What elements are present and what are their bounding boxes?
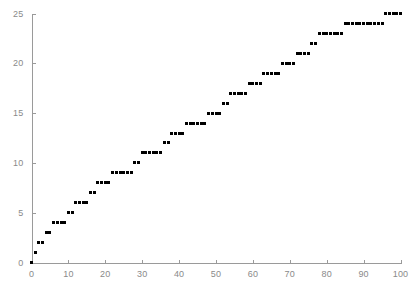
x-tick-label: 60: [248, 269, 258, 279]
data-point: [362, 22, 365, 25]
data-point: [288, 62, 291, 65]
y-tick: [32, 14, 36, 15]
data-point: [45, 231, 48, 234]
data-point: [89, 191, 92, 194]
x-tick-label: 10: [63, 269, 73, 279]
data-point: [355, 22, 358, 25]
data-point: [174, 132, 177, 135]
data-point: [133, 161, 136, 164]
data-point: [395, 12, 398, 15]
y-tick: [32, 113, 36, 114]
x-tick: [179, 260, 180, 264]
x-tick: [253, 260, 254, 264]
data-point: [178, 132, 181, 135]
data-point: [340, 32, 343, 35]
data-point: [314, 42, 317, 45]
data-point: [310, 42, 313, 45]
x-tick-label: 80: [321, 269, 331, 279]
data-point: [285, 62, 288, 65]
x-tick-label: 70: [285, 269, 295, 279]
data-point: [358, 22, 361, 25]
data-point: [152, 151, 155, 154]
data-point: [48, 231, 51, 234]
data-point: [373, 22, 376, 25]
data-point: [388, 12, 391, 15]
x-tick: [216, 260, 217, 264]
x-tick: [364, 260, 365, 264]
data-point: [41, 241, 44, 244]
data-point: [211, 112, 214, 115]
data-point: [218, 112, 221, 115]
x-tick: [105, 260, 106, 264]
data-point: [163, 141, 166, 144]
data-point: [229, 92, 232, 95]
data-point: [303, 52, 306, 55]
data-point: [96, 181, 99, 184]
data-point: [200, 122, 203, 125]
data-point: [251, 82, 254, 85]
x-tick-label: 90: [358, 269, 368, 279]
y-tick: [32, 63, 36, 64]
data-point: [344, 22, 347, 25]
y-axis-line: [32, 14, 33, 263]
data-point: [115, 171, 118, 174]
data-point: [255, 82, 258, 85]
data-point: [296, 52, 299, 55]
data-point: [207, 112, 210, 115]
y-tick-label: 20: [0, 58, 24, 68]
x-tick-label: 0: [29, 269, 34, 279]
y-tick-label: 0: [0, 258, 24, 268]
data-point: [222, 102, 225, 105]
data-point: [262, 72, 265, 75]
data-point: [270, 72, 273, 75]
data-point: [170, 132, 173, 135]
data-point: [392, 12, 395, 15]
data-point: [122, 171, 125, 174]
x-tick-label: 40: [174, 269, 184, 279]
data-point: [85, 201, 88, 204]
data-point: [377, 22, 380, 25]
data-point: [119, 171, 122, 174]
data-point: [181, 132, 184, 135]
data-point: [104, 181, 107, 184]
data-point: [63, 221, 66, 224]
data-point: [277, 72, 280, 75]
data-point: [126, 171, 129, 174]
data-point: [351, 22, 354, 25]
data-point: [74, 201, 77, 204]
data-point: [333, 32, 336, 35]
x-tick-label: 30: [137, 269, 147, 279]
data-point: [100, 181, 103, 184]
data-point: [52, 221, 55, 224]
data-point: [67, 211, 70, 214]
x-tick: [290, 260, 291, 264]
data-point: [369, 22, 372, 25]
data-point: [71, 211, 74, 214]
plot-area: 0102030405060708090100 0510152025: [0, 0, 416, 293]
data-point: [237, 92, 240, 95]
data-point: [82, 201, 85, 204]
data-point: [215, 112, 218, 115]
data-point: [111, 171, 114, 174]
data-point: [307, 52, 310, 55]
data-point: [155, 151, 158, 154]
data-point: [366, 22, 369, 25]
data-point: [336, 32, 339, 35]
data-point: [189, 122, 192, 125]
y-tick: [32, 213, 36, 214]
data-point: [318, 32, 321, 35]
data-point: [148, 151, 151, 154]
x-tick: [401, 260, 402, 264]
data-point: [185, 122, 188, 125]
data-point: [137, 161, 140, 164]
data-point: [248, 82, 251, 85]
data-point: [192, 122, 195, 125]
data-point: [60, 221, 63, 224]
data-point: [322, 32, 325, 35]
data-point: [93, 191, 96, 194]
data-point: [196, 122, 199, 125]
data-point: [233, 92, 236, 95]
data-point: [292, 62, 295, 65]
data-point: [34, 251, 37, 254]
data-point: [107, 181, 110, 184]
